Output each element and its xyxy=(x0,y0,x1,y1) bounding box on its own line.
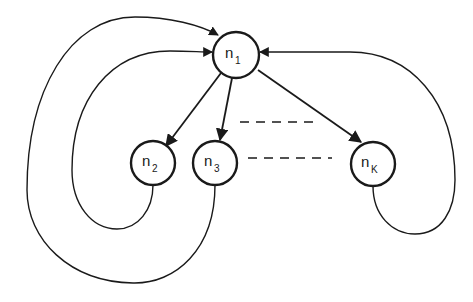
loop-n3-to-n1 xyxy=(27,17,218,283)
node-n2: n 2 xyxy=(131,141,175,185)
node-n1: n 1 xyxy=(213,32,259,78)
node-subscript: K xyxy=(371,164,378,175)
node-subscript: 2 xyxy=(152,163,158,174)
graph-diagram: n 1 n 2 n 3 n K xyxy=(0,0,473,302)
edge-n1-n3 xyxy=(220,78,232,140)
loop-n2-to-n1 xyxy=(72,51,212,229)
node-subscript: 1 xyxy=(235,55,241,66)
loop-nK-to-n1 xyxy=(260,52,455,234)
edge-n1-nK xyxy=(258,70,361,142)
node-label: n xyxy=(204,152,212,169)
node-subscript: 3 xyxy=(214,163,220,174)
node-nK: n K xyxy=(351,142,395,186)
node-label: n xyxy=(361,153,369,170)
node-label: n xyxy=(225,44,233,61)
node-label: n xyxy=(142,152,150,169)
edge-n1-n2 xyxy=(166,73,221,146)
node-n3: n 3 xyxy=(193,141,237,185)
